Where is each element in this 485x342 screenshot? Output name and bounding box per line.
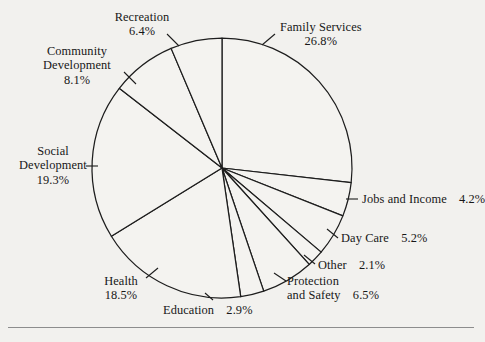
pie-label-protection-and-safety-line2: and Safety [287, 288, 341, 302]
pie-label-community-development-percent: 8.1% [32, 73, 122, 87]
pie-label-education: Education 2.9% [163, 303, 253, 317]
pie-label-recreation-percent: 6.4% [106, 24, 178, 38]
pie-label-community-development-line1: Community [32, 44, 122, 58]
pie-label-social-development-line1: Social [10, 144, 96, 158]
pie-label-other-percent: 2.1% [359, 258, 385, 272]
pie-label-jobs-and-income-name: Jobs and Income [362, 192, 447, 206]
pie-label-other: Other 2.1% [318, 258, 385, 272]
pie-slices-group [92, 38, 352, 298]
pie-label-protection-and-safety-line1: Protection [287, 274, 379, 288]
pie-label-family-services-percent: 26.8% [280, 34, 362, 48]
pie-label-jobs-and-income: Jobs and Income 4.2% [362, 192, 485, 206]
pie-label-day-care-percent: 5.2% [401, 231, 427, 245]
pie-label-other-name: Other [318, 258, 347, 272]
pie-label-family-services: Family Services 26.8% [280, 20, 362, 49]
footer-divider [8, 327, 474, 328]
pie-label-social-development-line2: Development [10, 158, 96, 172]
pie-label-community-development: Community Development 8.1% [32, 44, 122, 87]
pie-label-day-care: Day Care 5.2% [341, 231, 427, 245]
pie-label-family-services-name: Family Services [280, 20, 362, 34]
pie-label-jobs-and-income-percent: 4.2% [459, 192, 485, 206]
pie-label-day-care-name: Day Care [341, 231, 389, 245]
pie-slice [222, 38, 352, 183]
pie-label-health-percent: 18.5% [92, 288, 150, 302]
pie-label-community-development-line2: Development [32, 58, 122, 72]
pie-label-recreation: Recreation 6.4% [106, 10, 178, 39]
leader-line [262, 34, 275, 45]
pie-label-social-development-percent: 19.3% [10, 173, 96, 187]
pie-label-protection-and-safety: Protection and Safety 6.5% [287, 274, 379, 303]
pie-label-health: Health 18.5% [92, 274, 150, 303]
pie-label-education-name: Education [163, 303, 214, 317]
pie-label-protection-and-safety-percent: 6.5% [353, 288, 379, 302]
pie-label-recreation-name: Recreation [106, 10, 178, 24]
pie-label-education-percent: 2.9% [226, 303, 252, 317]
pie-label-social-development: Social Development 19.3% [10, 144, 96, 187]
pie-label-health-name: Health [92, 274, 150, 288]
